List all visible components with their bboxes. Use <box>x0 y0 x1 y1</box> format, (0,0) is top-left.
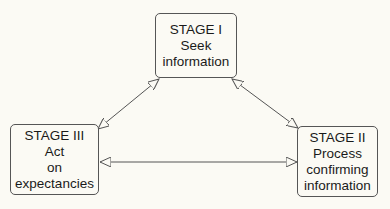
stage-2-line-1: Process <box>313 146 362 162</box>
diagram-canvas: STAGE I Seek information STAGE III Act o… <box>0 0 390 209</box>
arrow-stage1-stage3 <box>98 79 159 129</box>
stage-1-line-2: information <box>163 54 230 70</box>
stage-3-line-3: expectancies <box>15 176 94 192</box>
stage-3-line-2: on <box>47 160 62 176</box>
stage-3-box: STAGE III Act on expectancies <box>10 124 99 195</box>
stage-3-line-1: Act <box>45 144 65 160</box>
stage-2-line-3: information <box>304 178 371 194</box>
stage-3-title: STAGE III <box>25 128 85 144</box>
stage-1-box: STAGE I Seek information <box>155 13 237 78</box>
stage-1-title: STAGE I <box>170 22 222 38</box>
arrow-stage1-stage2 <box>232 79 298 128</box>
stage-2-box: STAGE II Process confirming information <box>297 126 378 197</box>
stage-2-title: STAGE II <box>309 130 365 146</box>
stage-2-line-2: confirming <box>306 162 368 178</box>
stage-1-line-1: Seek <box>181 38 212 54</box>
